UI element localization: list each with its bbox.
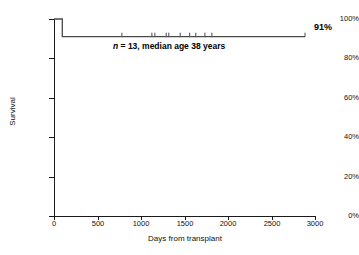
survival-curve-layer <box>0 0 359 255</box>
kaplan-meier-step-curve <box>54 19 305 37</box>
cohort-annotation: n = 13, median age 38 years <box>113 41 225 51</box>
survival-chart-figure: 0%20%40%60%80%100% 050010001500200025003… <box>0 0 359 255</box>
annotation-text: = 13, median age 38 years <box>118 41 225 51</box>
final-survival-label: 91% <box>314 22 332 32</box>
